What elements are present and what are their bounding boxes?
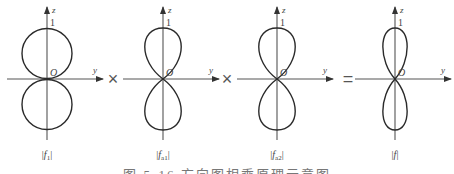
y-axis-label: y [92,65,97,75]
origin-label: O [50,67,57,78]
z-axis-label: z [167,5,172,15]
origin-label: O [398,67,405,78]
radiation-pattern-fa1: z1Oy|fa1| [123,5,219,162]
unit-tick-label: 1 [398,17,403,28]
y-axis-label: y [440,65,445,75]
pattern-multiplication-diagram: z1Oy|f1|z1Oy|fa1|z1Oy|fa2|z1Oy|f| ××= [0,0,454,174]
unit-tick-label: 1 [166,17,171,28]
z-axis-label: z [51,5,56,15]
z-axis-label: z [281,5,286,15]
origin-label: O [280,67,287,78]
y-axis-label: y [322,65,327,75]
origin-label: O [166,67,173,78]
equals-operator: = [343,69,354,89]
panel-label-fa1: |fa1| [156,149,169,162]
z-axis-label: z [399,5,404,15]
panel-label-f: |f| [392,149,399,160]
multiply-operator-2: × [222,69,233,89]
radiation-pattern-f: z1Oy|f| [355,5,451,160]
y-axis-label: y [208,65,213,75]
radiation-pattern-fa2: z1Oy|fa2| [237,5,333,162]
multiply-operator-1: × [108,69,119,89]
radiation-pattern-f1: z1Oy|f1| [7,5,103,162]
figure-caption: 图 5-16 方向图相乘原理示意图 [0,164,454,174]
unit-tick-label: 1 [280,17,285,28]
unit-tick-label: 1 [50,17,55,28]
panel-label-f1: |f1| [42,149,52,162]
panel-label-fa2: |fa2| [270,149,283,162]
